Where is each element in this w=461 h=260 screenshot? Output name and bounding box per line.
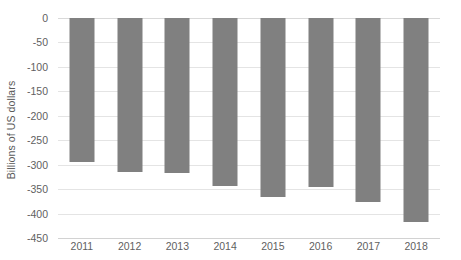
y-axis-tick-label: -150: [27, 85, 48, 97]
y-axis-tick-label: -200: [27, 110, 48, 122]
plot-area: [58, 18, 440, 238]
bar: [69, 18, 94, 162]
bar-slot: [345, 18, 393, 238]
bar: [260, 18, 285, 197]
x-axis-tick-label: 2011: [71, 240, 94, 252]
bar-slot: [201, 18, 249, 238]
y-axis-tick-label: -250: [27, 134, 48, 146]
bar: [117, 18, 142, 172]
x-axis-tick-labels: 20112012201320142015201620172018: [58, 240, 440, 260]
bar: [404, 18, 429, 222]
bar-chart: Billions of US dollars 0-50-100-150-200-…: [0, 0, 461, 260]
x-axis-tick-label: 2012: [118, 240, 141, 252]
bar: [165, 18, 190, 173]
x-axis-tick-label: 2017: [357, 240, 380, 252]
gridline: [58, 238, 440, 239]
y-axis-tick-label: -300: [27, 159, 48, 171]
bar-slot: [392, 18, 440, 238]
bar-slot: [297, 18, 345, 238]
bar-slot: [58, 18, 106, 238]
y-axis-tick-label: 0: [42, 12, 48, 24]
bar: [213, 18, 238, 186]
y-axis-tick-labels: 0-50-100-150-200-250-300-350-400-450: [0, 18, 53, 238]
bar: [308, 18, 333, 187]
bar: [356, 18, 381, 202]
x-axis-tick-label: 2014: [213, 240, 236, 252]
x-axis-tick-label: 2016: [309, 240, 332, 252]
y-axis-tick-label: -400: [27, 208, 48, 220]
y-axis-tick-label: -50: [33, 36, 48, 48]
x-axis-tick-label: 2015: [261, 240, 284, 252]
x-axis-tick-label: 2013: [166, 240, 189, 252]
y-axis-tick-label: -350: [27, 183, 48, 195]
bar-slot: [154, 18, 202, 238]
y-axis-tick-label: -450: [27, 232, 48, 244]
y-axis-tick-label: -100: [27, 61, 48, 73]
bar-slot: [106, 18, 154, 238]
bars-layer: [58, 18, 440, 238]
bar-slot: [249, 18, 297, 238]
x-axis-tick-label: 2018: [404, 240, 427, 252]
